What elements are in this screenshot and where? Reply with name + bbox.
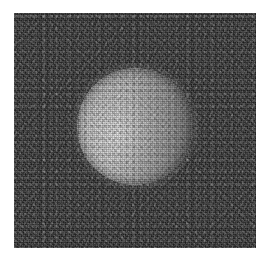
figure-root [0, 0, 272, 263]
disk-edge-vignette [77, 68, 193, 185]
bright-disk [77, 68, 193, 185]
image-frame [14, 13, 256, 248]
